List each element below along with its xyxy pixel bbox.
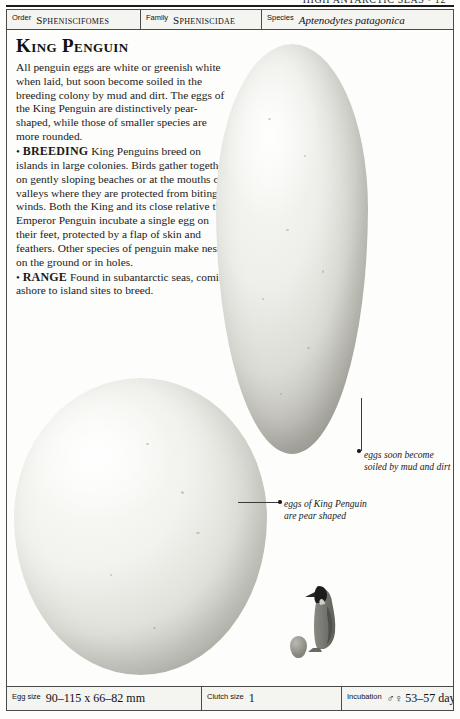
article-text-column: King Penguin All penguin eggs are white … bbox=[16, 36, 231, 298]
egg-speck bbox=[286, 229, 289, 231]
page-title: King Penguin bbox=[16, 36, 231, 56]
bullet-glyph-breeding: • bbox=[16, 145, 20, 157]
penguin-beak bbox=[305, 592, 315, 597]
text-breeding: King Penguins breed on islands in large … bbox=[16, 145, 227, 268]
incubation-value: 53–57 days bbox=[405, 691, 453, 706]
measurements-bar: Egg size 90–115 x 66–82 mm Clutch size 1… bbox=[7, 686, 453, 710]
egg-speck bbox=[146, 443, 149, 445]
egg-speck bbox=[280, 393, 282, 395]
egg-speck bbox=[262, 298, 264, 300]
sex-symbols-icon: ♂♀ bbox=[387, 693, 404, 704]
egg-speck bbox=[196, 532, 200, 534]
family-label: Family bbox=[146, 13, 168, 22]
bullet-glyph-range: • bbox=[16, 271, 20, 283]
leader-line-pear-horizontal bbox=[238, 502, 280, 503]
egg-speck bbox=[268, 118, 271, 120]
keyword-range: RANGE bbox=[23, 270, 67, 284]
incubation-label: Incubation bbox=[347, 692, 382, 701]
intro-paragraph: All penguin eggs are white or greenish w… bbox=[16, 61, 231, 144]
top-rule bbox=[6, 5, 454, 7]
book-page: HIGH ANTARCTIC SEAS • 12 Order Sphenisci… bbox=[0, 0, 460, 719]
leader-dot-pear bbox=[278, 500, 282, 504]
egg-size-label: Egg size bbox=[12, 692, 41, 701]
taxonomy-bar: Order Spheniscifomes Family Spheniscidae… bbox=[7, 10, 453, 30]
egg-speck bbox=[307, 347, 310, 349]
egg-speck bbox=[153, 627, 156, 629]
caption-eggs-pear-shaped: eggs of King Penguin are pear shaped bbox=[284, 498, 372, 521]
egg-speck bbox=[304, 155, 306, 157]
leader-line-soiled-vertical bbox=[361, 398, 362, 451]
article-body: All penguin eggs are white or greenish w… bbox=[16, 61, 231, 298]
data-cell-incubation: Incubation ♂♀ 53–57 days bbox=[341, 687, 453, 710]
egg-speck bbox=[181, 491, 184, 494]
clutch-size-value: 1 bbox=[249, 691, 255, 706]
order-label: Order bbox=[12, 13, 31, 22]
section-range: • RANGE Found in subantarctic seas, comi… bbox=[16, 270, 231, 299]
data-cell-clutch-size: Clutch size 1 bbox=[201, 687, 341, 710]
egg-size-value: 90–115 x 66–82 mm bbox=[46, 691, 145, 706]
caption-eggs-soiled: eggs soon become soiled by mud and dirt bbox=[364, 449, 456, 472]
penguin-feet bbox=[308, 648, 322, 652]
section-breeding: • BREEDING King Penguins breed on island… bbox=[16, 144, 231, 270]
species-value: Aptenodytes patagonica bbox=[299, 14, 405, 26]
egg-speck bbox=[322, 270, 324, 273]
species-label: Species bbox=[267, 13, 294, 22]
clutch-size-label: Clutch size bbox=[207, 692, 244, 701]
order-value: Spheniscifomes bbox=[36, 14, 109, 26]
egg-speck bbox=[110, 574, 112, 576]
data-cell-egg-size: Egg size 90–115 x 66–82 mm bbox=[7, 687, 201, 710]
taxonomy-cell-species: Species Aptenodytes patagonica bbox=[261, 10, 453, 29]
leader-dot-soiled bbox=[357, 449, 361, 453]
family-value: Spheniscidae bbox=[173, 14, 235, 26]
keyword-breeding: BREEDING bbox=[23, 144, 89, 158]
king-penguin-illustration bbox=[300, 582, 344, 654]
taxonomy-cell-order: Order Spheniscifomes bbox=[7, 10, 140, 29]
taxonomy-cell-family: Family Spheniscidae bbox=[140, 10, 261, 29]
